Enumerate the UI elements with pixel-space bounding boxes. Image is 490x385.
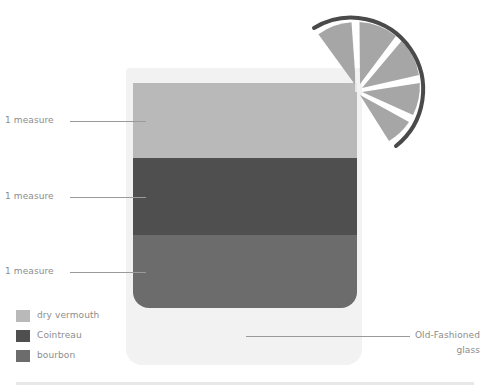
glass-label-line2: glass xyxy=(414,345,480,355)
legend-label-cointreau: Cointreau xyxy=(37,330,82,340)
measure-label-dry-vermouth: 1 measure xyxy=(5,115,54,125)
legend-label-dry-vermouth: dry vermouth xyxy=(37,310,99,320)
measure-label-bourbon: 1 measure xyxy=(5,266,54,276)
glass-label-line1: Old-Fashioned xyxy=(414,330,480,340)
lime-wedge-icon xyxy=(0,0,490,385)
legend-swatch-dry-vermouth xyxy=(16,310,30,322)
leader-line xyxy=(70,121,146,122)
legend-swatch-cointreau xyxy=(16,330,30,342)
leader-line xyxy=(70,272,146,273)
leader-line xyxy=(246,336,410,337)
measure-label-cointreau: 1 measure xyxy=(5,191,54,201)
legend-swatch-bourbon xyxy=(16,350,30,362)
legend-label-bourbon: bourbon xyxy=(37,350,75,360)
leader-line xyxy=(70,197,146,198)
